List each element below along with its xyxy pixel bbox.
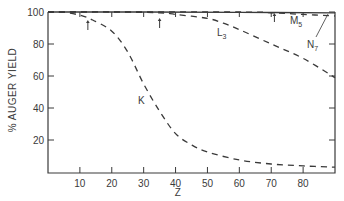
label-n7: N7 xyxy=(307,39,318,52)
y-tick-label: 60 xyxy=(33,71,45,82)
x-tick-label: 80 xyxy=(298,178,310,189)
x-tick-label: 10 xyxy=(74,178,86,189)
curve-n7 xyxy=(48,12,335,13)
y-axis-title: % AUGER YIELD xyxy=(7,48,18,133)
label-m5: M5 xyxy=(290,15,302,28)
y-tick-label: 40 xyxy=(33,103,45,114)
arrow-head-icon xyxy=(158,18,162,21)
curves xyxy=(48,12,335,167)
x-axis-title: Z xyxy=(175,187,182,198)
auger-yield-chart: 102030405060708020406080100 Z % AUGER YI… xyxy=(0,0,344,201)
x-tick-label: 30 xyxy=(138,178,150,189)
x-tick-label: 20 xyxy=(106,178,118,189)
axes-frame xyxy=(48,12,335,173)
n7-leader-line xyxy=(316,14,328,37)
x-tick-label: 60 xyxy=(234,178,246,189)
y-tick-label: 20 xyxy=(33,135,45,146)
label-l3: L3 xyxy=(217,27,227,40)
curve-k xyxy=(48,12,335,167)
x-tick-label: 70 xyxy=(266,178,278,189)
axis-ticks: 102030405060708020406080100 xyxy=(27,7,335,189)
plot-frame xyxy=(48,12,335,173)
arrow-head-icon xyxy=(86,20,90,23)
y-tick-label: 100 xyxy=(27,7,44,18)
y-tick-label: 80 xyxy=(33,39,45,50)
x-tick-label: 50 xyxy=(202,178,214,189)
label-k: K xyxy=(138,95,145,106)
